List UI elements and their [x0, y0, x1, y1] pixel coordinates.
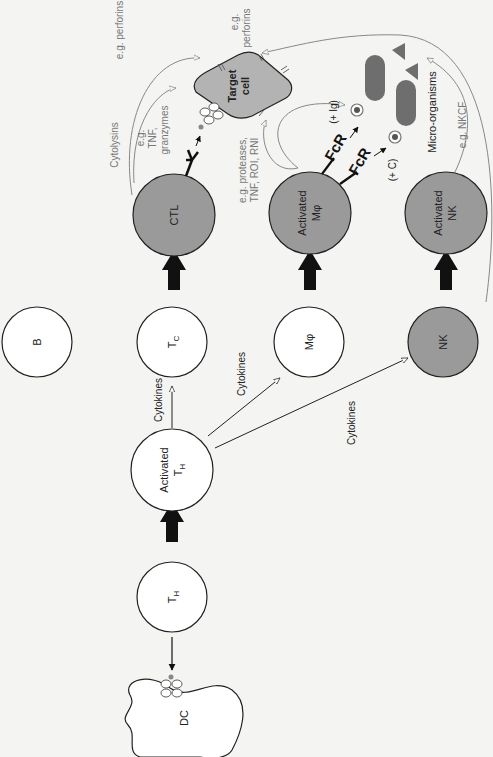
activated-th-cell: Activated TH [131, 429, 213, 511]
tc-subscript: C [172, 336, 181, 342]
granzymes-label: granzymes [159, 106, 170, 155]
plus-c-label: (+ C) [387, 159, 398, 182]
micro-organisms-icon [365, 43, 418, 126]
cytokines-tc-label: Cytokines [153, 378, 164, 422]
thick-arrow-nk-to-activated [434, 250, 458, 290]
thick-arrow-mphi-to-activated [298, 250, 322, 290]
opsonized-particle-ig [351, 104, 363, 116]
fc-receptor-c-icon: FcR [340, 145, 386, 184]
micro-organisms-label: Micro-organisms [426, 71, 438, 153]
activated-nk-sublabel: NK [446, 205, 458, 221]
th-cell: TH [137, 562, 207, 632]
eg-perforins-ctl-label: e.g. perforins [114, 1, 125, 59]
target-cell: Target cell [194, 52, 291, 118]
activated-th-subscript: H [178, 464, 187, 470]
dendritic-cell: DC [125, 679, 243, 757]
fcr-label-c: FcR [345, 145, 374, 178]
activated-th-label: Activated [158, 447, 170, 492]
eg-nkcf-label: e.g. NKCF [457, 102, 468, 149]
arrow-tcr-to-mhc [196, 136, 200, 146]
mphi-label: Mφ [303, 334, 315, 350]
cytolysins-label: Cytolysins [109, 122, 120, 168]
target-cell-label: Target [226, 69, 238, 102]
t-cell-receptor-icon [186, 150, 198, 176]
opsonized-particle-c [389, 131, 401, 143]
dc-label: DC [178, 710, 190, 726]
activated-mphi-sublabel: Mφ [310, 205, 322, 221]
activated-macrophage-cell: Activated Mφ [269, 172, 351, 254]
arrow-mphi-to-target [264, 120, 298, 169]
b-label: B [31, 338, 43, 345]
eg-proteases-label-2: TNF, ROI, RNI [249, 138, 260, 202]
target-cell-sublabel: cell [239, 77, 251, 95]
activated-nk-label: Activated [432, 190, 444, 235]
macrophage-cell: Mφ [274, 307, 344, 377]
ctl-label: CTL [168, 205, 180, 226]
th-subscript: H [172, 591, 181, 597]
activated-nk-cell: Activated NK [405, 172, 487, 254]
tc-cell: TC [137, 307, 207, 377]
b-cell: B [2, 307, 72, 377]
nk-label: NK [437, 334, 449, 350]
tnf-label: TNF, [147, 127, 158, 148]
cytokines-nk-label: Cytokines [346, 401, 357, 445]
ctl-cell: CTL [133, 174, 215, 256]
nk-cell: NK [408, 307, 478, 377]
fcr-label-ig: FcR [321, 131, 350, 164]
mhc-peptide-complex-target [199, 103, 224, 130]
eg-label-1: e.g. [135, 130, 146, 147]
immune-effector-diagram: DC TH Activated TH B TC Mφ NK [0, 0, 493, 757]
eg-proteases-label-1: e.g. proteases, [237, 137, 248, 203]
eg-perforins-nk-label-1: e.g. [229, 14, 240, 31]
cytokines-mphi-label: Cytokines [236, 352, 247, 396]
eg-perforins-nk-label-2: perforins [241, 9, 252, 48]
activated-mphi-label: Activated [296, 190, 308, 235]
plus-ig-label: (+ Ig) [328, 100, 339, 124]
